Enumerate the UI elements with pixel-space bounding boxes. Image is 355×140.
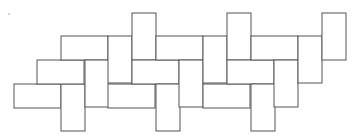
tile-vertical-10	[156, 84, 180, 131]
tile-horizontal-15	[227, 60, 274, 84]
tile-horizontal-0	[14, 84, 61, 108]
stray-dot	[8, 13, 9, 14]
tile-horizontal-7	[108, 84, 155, 108]
tile-vertical-12	[203, 36, 227, 83]
tile-vertical-4	[85, 60, 109, 107]
tile-vertical-17	[251, 84, 275, 131]
tile-vertical-18	[274, 60, 298, 107]
tile-horizontal-16	[251, 36, 298, 60]
tile-horizontal-8	[132, 60, 179, 84]
tile-horizontal-2	[37, 60, 84, 84]
tiles-group	[14, 13, 346, 131]
tile-vertical-1	[61, 84, 85, 131]
tile-vertical-5	[108, 36, 132, 83]
tile-vertical-20	[322, 13, 346, 60]
tile-horizontal-14	[203, 84, 250, 108]
tile-vertical-13	[227, 13, 251, 60]
tile-horizontal-9	[156, 36, 203, 60]
herringbone-diagram	[0, 0, 355, 140]
tile-vertical-19	[298, 36, 322, 83]
tile-horizontal-3	[61, 36, 108, 60]
tile-vertical-11	[179, 60, 203, 107]
tile-vertical-6	[132, 13, 156, 60]
